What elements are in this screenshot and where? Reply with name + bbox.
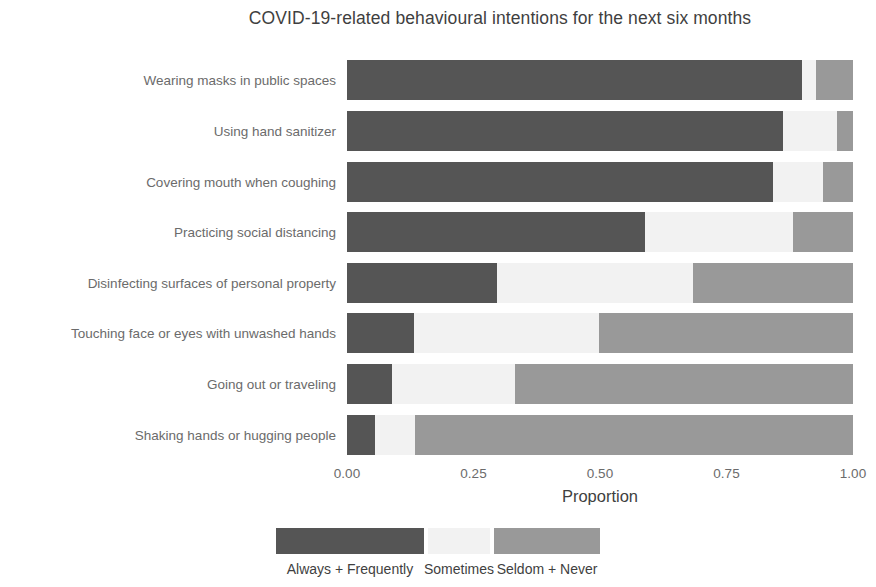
plot-area [347, 55, 853, 460]
legend-swatch [494, 528, 600, 554]
chart-legend: Always + FrequentlySometimesSeldom + Nev… [0, 528, 876, 577]
x-axis-tick-group: 0.000.250.500.751.00 [347, 466, 853, 486]
stacked-bar-chart: COVID-19-related behavioural intentions … [0, 0, 876, 587]
bar-row [347, 364, 853, 404]
legend-label: Sometimes [424, 561, 494, 577]
bar-row [347, 60, 853, 100]
bar-row [347, 263, 853, 303]
bar-row [347, 313, 853, 353]
bar-segment-1 [773, 162, 823, 202]
bar-segment-0 [347, 212, 645, 252]
legend-label: Seldom + Never [497, 561, 598, 577]
bar-segment-2 [837, 111, 853, 151]
y-axis-label: Going out or traveling [0, 377, 336, 392]
legend-swatch [428, 528, 490, 554]
y-axis-label-group: Wearing masks in public spacesUsing hand… [0, 55, 336, 460]
bar-row [347, 212, 853, 252]
bar-row [347, 162, 853, 202]
y-axis-label: Covering mouth when coughing [0, 174, 336, 189]
bar-segment-2 [823, 162, 853, 202]
bar-segment-2 [599, 313, 853, 353]
y-axis-label: Disinfecting surfaces of personal proper… [0, 275, 336, 290]
bar-segment-1 [645, 212, 793, 252]
bar-row [347, 415, 853, 455]
bar-segment-2 [415, 415, 853, 455]
bar-segment-0 [347, 313, 414, 353]
bar-segment-1 [802, 60, 815, 100]
bar-segment-2 [816, 60, 853, 100]
y-axis-label: Using hand sanitizer [0, 123, 336, 138]
y-axis-label: Shaking hands or hugging people [0, 427, 336, 442]
y-axis-label: Touching face or eyes with unwashed hand… [0, 326, 336, 341]
x-axis-tick: 0.00 [334, 466, 360, 481]
legend-item[interactable]: Always + Frequently [276, 528, 424, 577]
chart-title: COVID-19-related behavioural intentions … [0, 8, 876, 29]
bar-segment-0 [347, 364, 392, 404]
bar-segment-2 [515, 364, 853, 404]
y-axis-label: Practicing social distancing [0, 225, 336, 240]
bar-segment-1 [497, 263, 693, 303]
bar-segment-2 [693, 263, 853, 303]
x-axis-title: Proportion [347, 487, 853, 506]
bar-segment-1 [375, 415, 415, 455]
x-axis-tick: 0.75 [713, 466, 739, 481]
y-axis-label: Wearing masks in public spaces [0, 73, 336, 88]
x-axis-tick: 1.00 [840, 466, 866, 481]
bar-segment-1 [414, 313, 599, 353]
bar-segment-0 [347, 111, 783, 151]
bar-segment-1 [783, 111, 837, 151]
legend-item[interactable]: Sometimes [424, 528, 494, 577]
bar-row [347, 111, 853, 151]
legend-label: Always + Frequently [287, 561, 413, 577]
bar-segment-0 [347, 263, 497, 303]
x-axis-tick: 0.25 [460, 466, 486, 481]
x-axis-tick: 0.50 [587, 466, 613, 481]
bar-segment-2 [793, 212, 853, 252]
bar-segment-0 [347, 415, 375, 455]
legend-item[interactable]: Seldom + Never [494, 528, 600, 577]
bar-segment-0 [347, 60, 802, 100]
bar-segment-0 [347, 162, 773, 202]
bar-segment-1 [392, 364, 515, 404]
legend-swatch [276, 528, 424, 554]
